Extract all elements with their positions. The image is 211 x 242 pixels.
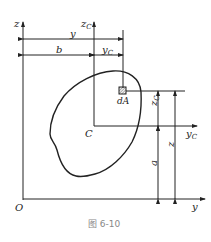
- zc-axis-label: zC: [80, 18, 92, 31]
- da-label: dA: [117, 96, 130, 106]
- dim-b-label: b: [56, 44, 62, 55]
- da-element: [119, 87, 126, 94]
- dim-y-label: y: [69, 28, 76, 39]
- dim-a-label: a: [148, 160, 159, 166]
- section-diagram: z zC y b yC dA C yC zC a z O y 图 6-10: [0, 0, 211, 242]
- z-axis-label: z: [13, 18, 20, 29]
- figure-caption: 图 6-10: [88, 219, 121, 229]
- dim-z-label: z: [165, 141, 176, 148]
- yc-axis-label: yC: [185, 128, 198, 141]
- centroid-label: C: [85, 128, 93, 139]
- cross-section-outline: [50, 71, 141, 176]
- origin-label: O: [15, 202, 23, 213]
- dim-zc-label: zC: [148, 95, 161, 107]
- y-axis-label: y: [191, 201, 198, 212]
